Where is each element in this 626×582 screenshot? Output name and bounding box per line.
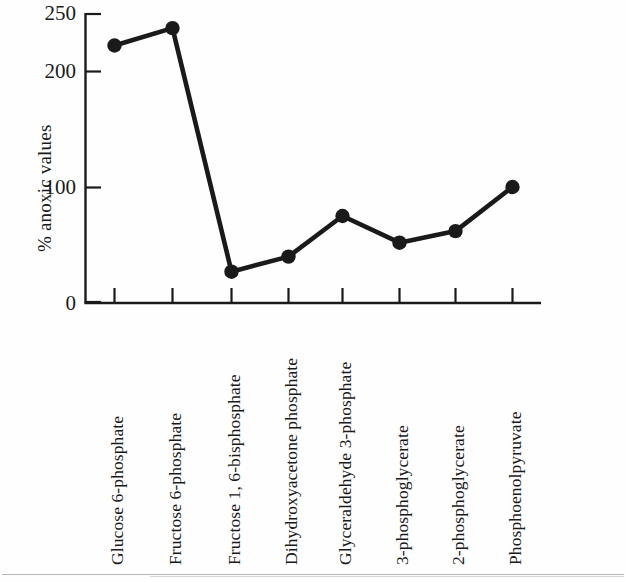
x-label-glyceraldehyde-3-phosphate: Glyceraldehyde 3-phosphate bbox=[336, 362, 355, 565]
x-label-fructose-6-phosphate: Fructose 6-phosphate bbox=[166, 413, 185, 565]
scan-artifact-line-secondary bbox=[150, 576, 624, 577]
x-label-3-phosphoglycerate: 3-phosphoglycerate bbox=[393, 425, 412, 565]
x-label-2-phosphoglycerate: 2-phosphoglycerate bbox=[449, 425, 468, 565]
scan-artifact-line bbox=[2, 574, 624, 575]
x-label-fructose-1-6-bisphosphate: Fructose 1, 6-bisphosphate bbox=[225, 374, 244, 565]
chart-figure: % anoxic values 250 200 100 0 bbox=[0, 0, 626, 582]
x-axis-category-labels: Glucose 6-phosphate Fructose 6-phosphate… bbox=[0, 0, 626, 582]
x-label-dihydroxyacetone-phosphate: Dihydroxyacetone phosphate bbox=[282, 358, 301, 565]
x-label-phosphoenolpyruvate: Phosphoenolpyruvate bbox=[506, 411, 525, 565]
x-label-glucose-6-phosphate: Glucose 6-phosphate bbox=[108, 416, 127, 565]
